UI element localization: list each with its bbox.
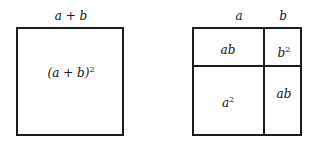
right-square-label-b: b [279,9,287,23]
vertical-divider [263,27,265,136]
area-base: (a + b) [48,66,90,80]
cell-bottom-left-label: a2 [222,93,234,110]
right-square-label-a: a [235,9,242,23]
cell-top-right-label: b2 [278,43,291,60]
left-square-area-label: (a + b)2 [48,63,95,80]
left-square [16,27,124,136]
left-square-top-label: a + b [55,9,88,23]
horizontal-divider [192,65,302,67]
area-exponent: 2 [89,65,94,74]
cell-bottom-right-label: ab [277,87,292,101]
cell-top-left-label: ab [221,43,236,57]
